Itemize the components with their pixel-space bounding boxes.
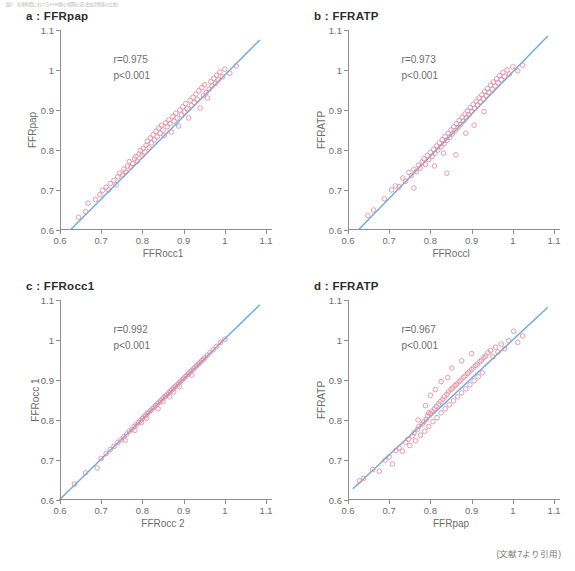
panel-a-title: a : FFRpap <box>26 10 88 22</box>
panel-c-y-tick <box>56 300 60 301</box>
panel-a-x-tick <box>184 230 185 234</box>
panel-d-data-point <box>439 411 444 416</box>
panel-a-data-point <box>173 111 178 116</box>
panel-a-fit-line <box>70 40 260 230</box>
panel-b-x-tick-label: 0.7 <box>383 235 396 246</box>
panel-d-x-tick <box>472 500 473 504</box>
panel-b-x-tick-label: 0.9 <box>465 235 478 246</box>
panel-d-x-tick-label: 1.1 <box>547 505 560 516</box>
panel-c-x-tick-label: 0.6 <box>53 505 66 516</box>
panel-c-x-tick <box>60 500 61 504</box>
figure-header-note: 図4 各薬剤間におけるFFR値の相関(心筋虚血診断能の比較) <box>6 1 119 7</box>
panel-b-data-point <box>472 123 477 128</box>
panel-a-y-tick <box>56 110 60 111</box>
panel-c-y-tick-label: 0.6 <box>41 495 54 506</box>
panel-c-x-tick-label: 1 <box>222 505 227 516</box>
panel-c-plot: r=0.992 p<0.001 FFRocc 2 FFRocc 1 0.60.7… <box>60 300 266 500</box>
panel-b-x-label: FFRoccl <box>432 248 469 259</box>
panel-d-y-tick <box>344 300 348 301</box>
panel-a-data-point <box>76 215 81 220</box>
panel-a-data-point <box>198 106 203 111</box>
panel-c-y-tick-label: 0.7 <box>41 455 54 466</box>
panel-c-y-tick <box>56 380 60 381</box>
panel-d-data-point <box>472 379 477 384</box>
panel-a-x-tick <box>60 230 61 234</box>
panel-b-x-tick-label: 1 <box>510 235 515 246</box>
panel-d-data-point <box>480 371 485 376</box>
panel-b-x-tick <box>430 230 431 234</box>
panel-c-x-tick <box>225 500 226 504</box>
panel-b-data-point <box>365 213 370 218</box>
panel-d-title: d : FFRATP <box>314 280 379 292</box>
panel-a-data-point <box>218 70 223 75</box>
panel-c-x-label: FFRocc 2 <box>141 518 184 529</box>
panel-b-data-point <box>441 151 446 156</box>
panel-d-data-point <box>416 418 421 423</box>
panel-c-y-tick <box>56 340 60 341</box>
panel-d-data-point <box>459 359 464 364</box>
panel-a-r-value: r=0.975 <box>114 52 150 68</box>
panel-d-y-tick <box>344 380 348 381</box>
panel-a-x-tick-label: 1.1 <box>259 235 272 246</box>
panel-c-y-tick-label: 1 <box>49 335 54 346</box>
panel-a-y-tick-label: 0.7 <box>41 185 54 196</box>
figure-panel-grid: a : FFRpap r=0.975 p<0.001 FFRocc1 FFRpa… <box>0 8 575 543</box>
panel-c-x-tick-label: 0.9 <box>177 505 190 516</box>
panel-d-data-point <box>511 329 516 334</box>
panel-d-data-point <box>451 399 456 404</box>
panel-c-title: c : FFRocc1 <box>26 280 94 292</box>
panel-a-scatter-svg <box>60 30 266 230</box>
panel-a-x-tick <box>266 230 267 234</box>
panel-a-x-tick <box>225 230 226 234</box>
panel-d-x-tick-label: 1 <box>510 505 515 516</box>
panel-a-x-tick-label: 0.7 <box>95 235 108 246</box>
panel-b-x-tick-label: 0.8 <box>424 235 437 246</box>
panel-d-data-point <box>469 351 474 356</box>
panel-b-plot: r=0.973 p<0.001 FFRoccl FFRATP 0.60.70.8… <box>348 30 554 230</box>
panel-c-stats: r=0.992 p<0.001 <box>114 322 150 354</box>
panel-c-y-tick-label: 0.8 <box>41 415 54 426</box>
panel-d-y-tick-label: 0.7 <box>329 455 342 466</box>
panel-b-x-tick-label: 0.6 <box>341 235 354 246</box>
panel-a-x-tick-label: 0.9 <box>177 235 190 246</box>
panel-c-x-axis <box>60 499 272 500</box>
panel-b-data-point <box>482 109 487 114</box>
panel-d-p-value: p<0.001 <box>402 338 438 354</box>
panel-b-r-value: r=0.973 <box>402 52 438 68</box>
panel-d-data-point <box>408 443 413 448</box>
panel-a-y-tick-label: 1.1 <box>41 25 54 36</box>
panel-a-data-point <box>175 116 180 121</box>
panel-d-y-tick-label: 0.8 <box>329 415 342 426</box>
panel-a-y-label: FFRpap <box>27 112 38 148</box>
panel-d-x-tick-label: 0.6 <box>341 505 354 516</box>
panel-b-y-label: FFRATP <box>316 111 327 149</box>
panel-b-y-axis <box>348 30 349 230</box>
panel-d-data-point <box>455 395 460 400</box>
panel-b-title: b : FFRATP <box>314 10 379 22</box>
panel-a-x-tick <box>142 230 143 234</box>
panel-b-scatter-svg <box>348 30 554 230</box>
panel-d-data-point <box>428 393 433 398</box>
panel-d-x-label: FFRpap <box>433 518 469 529</box>
panel-a-data-point <box>176 124 181 129</box>
panel-d-data-point <box>435 415 440 420</box>
panel-d-data-point <box>426 424 431 429</box>
panel-a-x-tick <box>101 230 102 234</box>
panel-d-data-point <box>439 379 444 384</box>
panel-a-data-point <box>149 141 154 146</box>
panel-d-data-point <box>377 469 382 474</box>
panel-d-data-point <box>499 342 504 347</box>
panel-c-y-label: FFRocc 1 <box>30 378 41 421</box>
panel-b-data-point <box>389 188 394 193</box>
panel-a-y-tick-label: 1 <box>49 65 54 76</box>
panel-d-data-point <box>400 449 405 454</box>
panel-b-data-point <box>515 69 520 74</box>
panel-a-data-point <box>186 116 191 121</box>
panel-a-y-tick-label: 0.9 <box>41 105 54 116</box>
panel-c-scatter-svg <box>60 300 266 500</box>
panel-b-data-point <box>371 208 376 213</box>
panel-b-x-tick <box>513 230 514 234</box>
panel-a-x-tick-label: 1 <box>222 235 227 246</box>
panel-d-x-tick <box>348 500 349 504</box>
panel-d-data-point <box>450 366 455 371</box>
